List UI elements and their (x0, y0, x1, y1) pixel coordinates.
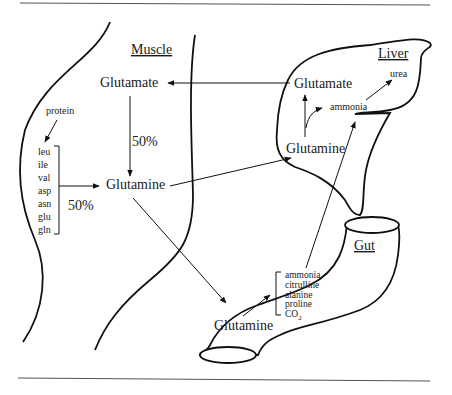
liver-glutamate: Glutamate (294, 76, 352, 91)
gut-top-opening (345, 217, 399, 233)
amino-acid: ile (38, 159, 49, 170)
amino-acid: leu (38, 146, 50, 157)
amino-acid: asp (38, 185, 51, 196)
muscle-glutamine-to-liver-arrow (170, 158, 291, 186)
liver-ammonia: ammonia (330, 101, 368, 112)
glutamine-metabolism-diagram: Muscle Glutamate 50% Glutamine protein l… (0, 0, 452, 395)
gut-title: Gut (354, 238, 375, 253)
muscle-glutamate: Glutamate (100, 75, 158, 90)
liver-title: Liver (378, 46, 409, 61)
muscle-glutamate-pct: 50% (132, 134, 158, 149)
amino-acid: gln (38, 224, 51, 235)
gut-bottom-opening (200, 347, 256, 363)
bottom-rule (18, 378, 430, 381)
liver-urea: urea (390, 68, 408, 79)
top-rule (20, 3, 430, 5)
amino-acid-pct: 50% (68, 198, 94, 213)
muscle-left-boundary (20, 22, 110, 342)
amino-acid-bracket (54, 146, 59, 234)
gut-product: ammonia (285, 270, 321, 280)
muscle-glutamine: Glutamine (106, 177, 165, 192)
muscle-glutamine-to-gut-arrow (133, 198, 226, 303)
liver-glutamine: Glutamine (286, 141, 345, 156)
gut-glutamine: Glutamine (214, 318, 273, 333)
amino-acid: asn (38, 198, 51, 209)
protein-label: protein (46, 105, 74, 116)
protein-to-amino-acids-arrow (45, 120, 57, 142)
gut-product: citrulline (285, 280, 319, 290)
amino-acid: glu (38, 211, 51, 222)
amino-acid-list: leu ile val asp asn glu gln (38, 146, 51, 235)
muscle-title: Muscle (131, 42, 172, 57)
gut-product: proline (285, 299, 312, 309)
amino-acid: val (38, 172, 50, 183)
